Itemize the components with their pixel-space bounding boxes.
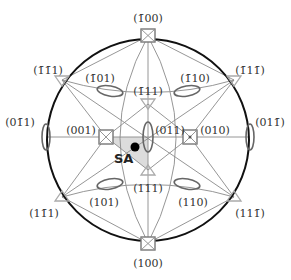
label-p101: (101) <box>89 196 119 209</box>
label-m111: (1̄11) <box>133 85 163 98</box>
sa-label: SA <box>114 151 133 166</box>
label-m110: (1̄10) <box>180 72 210 85</box>
label-m1m1: (1̄11̄) <box>235 64 265 77</box>
ellipse-icon-p110 <box>173 177 200 191</box>
label-p1m11: (11̄1) <box>29 207 59 220</box>
ellipse-icon-p101 <box>96 177 123 191</box>
label-p11m1: (111̄) <box>235 207 265 220</box>
label-p100: (100) <box>133 257 163 270</box>
label-p110: (110) <box>178 196 208 209</box>
label-mm11: (1̄1̄1) <box>33 64 63 77</box>
square-icon-p001 <box>99 130 113 144</box>
square-icon-p100 <box>141 237 155 250</box>
square-icon-m100 <box>141 29 155 42</box>
label-p010: (010) <box>200 124 230 137</box>
label-p111: (111) <box>133 182 163 195</box>
label-p001: (001) <box>66 124 96 137</box>
square-icon-p010 <box>183 130 197 144</box>
label-m0m11: (01̄1) <box>5 116 35 129</box>
label-p01m1: (011̄) <box>255 116 285 129</box>
stereographic-projection: SA (1̄00) (100) (001) (010) (011) (01̄1)… <box>0 0 291 280</box>
label-m100: (1̄00) <box>133 12 163 25</box>
label-p011: (011) <box>155 124 185 137</box>
label-m101: (1̄01) <box>85 72 115 85</box>
